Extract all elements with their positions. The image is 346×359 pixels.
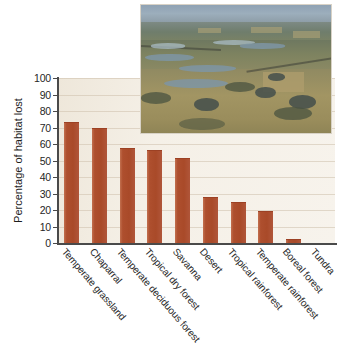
y-tick-mark	[53, 210, 57, 211]
photo-pond	[268, 73, 285, 81]
bar	[147, 150, 162, 243]
bar-slot	[113, 78, 141, 243]
bar	[258, 211, 273, 243]
bar	[231, 202, 246, 243]
y-tick-label: 50	[40, 155, 51, 167]
y-tick-mark	[53, 227, 57, 228]
bar-slot	[58, 78, 86, 243]
y-tick-label: 40	[40, 171, 51, 183]
x-axis-labels: Temperate grasslandChaparralTemperate de…	[58, 246, 335, 356]
y-tick-mark	[53, 111, 57, 112]
bar	[64, 122, 79, 243]
y-tick-label: 100	[34, 72, 51, 84]
photo-water	[151, 43, 185, 48]
y-tick-label: 10	[40, 221, 51, 233]
y-tick-mark	[53, 95, 57, 96]
bar-slot	[86, 78, 114, 243]
photo-field-patch	[198, 28, 221, 33]
photo-field-patch	[293, 31, 320, 39]
y-axis-title: Percentage of habitat lost	[8, 78, 28, 243]
photo-water	[240, 43, 286, 48]
aerial-landscape-photo	[141, 5, 331, 133]
bar	[120, 148, 135, 243]
y-tick-mark	[53, 243, 57, 244]
photo-vegetation	[141, 92, 171, 104]
photo-water	[179, 65, 236, 71]
photo-vegetation	[179, 118, 225, 131]
y-tick-label: 20	[40, 204, 51, 216]
y-tick-label: 80	[40, 105, 51, 117]
y-tick-mark	[53, 161, 57, 162]
x-axis-label: Desert	[198, 246, 225, 275]
x-axis-line	[57, 243, 337, 245]
y-tick-mark	[53, 128, 57, 129]
habitat-loss-figure: 0102030405060708090100 Percentage of hab…	[0, 0, 346, 359]
y-tick-label: 30	[40, 188, 51, 200]
y-tick-label: 0	[45, 237, 51, 249]
photo-field-patch	[251, 27, 281, 33]
y-tick-label: 70	[40, 122, 51, 134]
y-tick-mark	[53, 177, 57, 178]
bar	[203, 197, 218, 243]
bar	[286, 239, 301, 243]
x-axis-label: Tundra	[309, 246, 337, 276]
y-tick-mark	[53, 78, 57, 79]
y-tick-label: 90	[40, 89, 51, 101]
bar	[175, 158, 190, 243]
y-tick-label: 60	[40, 138, 51, 150]
bar	[92, 128, 107, 243]
photo-vegetation	[225, 82, 255, 92]
y-tick-mark	[53, 194, 57, 195]
y-tick-mark	[53, 144, 57, 145]
